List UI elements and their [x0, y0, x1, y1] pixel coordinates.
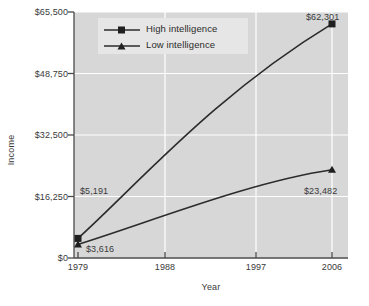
y-tick-label: $48,750: [4, 69, 68, 79]
legend-square-marker-icon: [102, 22, 142, 34]
legend-item-high-intelligence: High intelligence: [102, 20, 248, 36]
series-markers-low-intelligence: [74, 166, 336, 248]
series-line-high-intelligence: [78, 24, 332, 239]
income-by-intelligence-line-chart: $65,500 $48,750 $32,500 $16,250 $0 1979 …: [0, 0, 369, 306]
x-tick-label: 2006: [302, 262, 362, 272]
chart-legend: High intelligence Low intelligence: [98, 18, 248, 54]
data-label-low-1979: $3,616: [86, 244, 114, 254]
legend-triangle-marker-icon: [102, 38, 142, 50]
series-line-low-intelligence: [78, 170, 332, 245]
data-label-high-2006: $62,301: [306, 12, 339, 22]
x-axis-ticks: [78, 252, 332, 258]
data-label-high-1979: $5,191: [80, 186, 108, 196]
y-axis-title: Income: [6, 120, 16, 180]
x-tick-label: 1988: [135, 262, 195, 272]
x-tick-label: 1979: [48, 262, 108, 272]
legend-label: High intelligence: [146, 23, 217, 34]
y-axis-ticks: [68, 12, 74, 258]
legend-label: Low intelligence: [146, 39, 215, 50]
x-axis-title: Year: [74, 282, 348, 292]
data-label-low-2006: $23,482: [304, 186, 337, 196]
y-tick-label: $65,500: [4, 7, 68, 17]
x-tick-label: 1997: [226, 262, 286, 272]
legend-item-low-intelligence: Low intelligence: [102, 36, 248, 52]
y-tick-label: $16,250: [4, 192, 68, 202]
